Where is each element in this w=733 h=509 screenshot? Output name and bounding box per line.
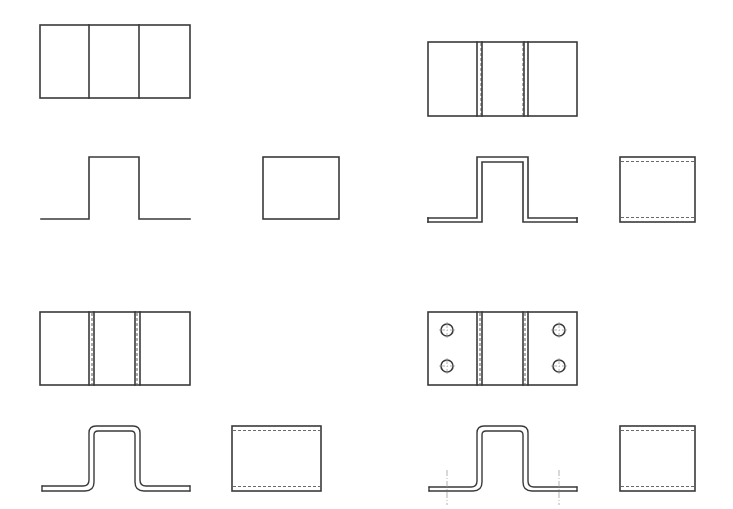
step-1-side-view xyxy=(263,157,339,219)
step-2-panel xyxy=(428,42,695,222)
step-3-panel xyxy=(40,312,321,491)
step-4-side-view xyxy=(620,426,695,491)
step-1-panel xyxy=(40,25,339,219)
step-2-plan-view xyxy=(428,42,577,116)
mounting-hole-icon xyxy=(551,322,567,338)
step-3-side-view xyxy=(232,426,321,491)
step-4-plan-view xyxy=(428,312,577,385)
mounting-hole-icon xyxy=(439,358,455,374)
step-1-front-profile xyxy=(41,157,190,219)
mounting-hole-icon xyxy=(551,358,567,374)
step-2-side-view xyxy=(620,157,695,222)
step-3-plan-view xyxy=(40,312,190,385)
mounting-hole-icon xyxy=(439,322,455,338)
step-3-front-profile xyxy=(42,426,190,491)
step-4-panel xyxy=(428,312,695,505)
step-1-plan-view xyxy=(40,25,190,98)
step-4-front-profile xyxy=(429,426,577,505)
step-2-front-profile xyxy=(428,157,577,222)
drawing-canvas xyxy=(0,0,733,509)
